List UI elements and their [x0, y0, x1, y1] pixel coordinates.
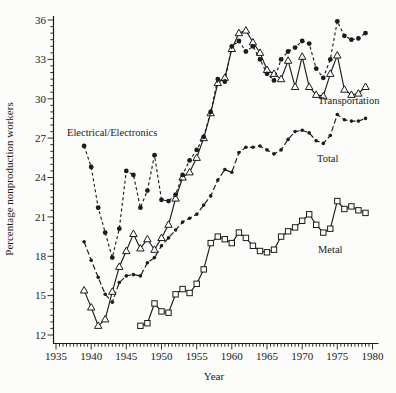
marker-small-dot — [357, 119, 361, 123]
marker-open-triangle — [306, 83, 313, 90]
marker-filled-circle — [335, 19, 340, 24]
x-tick-label: 1935 — [45, 350, 68, 362]
marker-small-dot — [153, 256, 157, 260]
chart-figure: Percentage nonproduction workers Year 12… — [0, 0, 396, 393]
marker-filled-circle — [244, 49, 249, 54]
axis-spines — [54, 16, 379, 344]
marker-open-triangle — [158, 234, 165, 241]
y-axis-tick-labels: 121518212427303336 — [35, 14, 47, 341]
marker-small-dot — [364, 117, 368, 121]
marker-open-triangle — [291, 83, 298, 90]
x-tick-label: 1975 — [326, 350, 349, 362]
marker-filled-circle — [321, 75, 326, 80]
marker-small-dot — [146, 261, 150, 265]
marker-open-square — [328, 226, 333, 231]
marker-open-square — [159, 309, 164, 314]
marker-filled-circle — [201, 134, 206, 139]
marker-filled-circle — [152, 153, 157, 158]
marker-small-dot — [223, 168, 227, 172]
marker-open-square — [138, 323, 143, 328]
x-tick-label: 1945 — [115, 350, 138, 362]
marker-filled-circle — [89, 165, 94, 170]
marker-filled-circle — [356, 36, 361, 41]
marker-filled-circle — [251, 44, 256, 49]
marker-small-dot — [139, 274, 143, 278]
marker-open-square — [285, 229, 290, 234]
marker-open-square — [222, 237, 227, 242]
marker-small-dot — [181, 220, 185, 224]
y-tick-label: 12 — [35, 329, 46, 341]
marker-filled-circle — [222, 79, 227, 84]
marker-filled-circle — [131, 173, 136, 178]
series-metal: Metal — [138, 198, 368, 328]
marker-small-dot — [195, 213, 199, 217]
marker-filled-circle — [342, 33, 347, 38]
y-axis-ticks — [48, 20, 54, 335]
marker-open-triangle — [109, 288, 116, 295]
marker-open-square — [187, 290, 192, 295]
y-tick-label: 21 — [35, 211, 46, 223]
marker-small-dot — [125, 274, 129, 278]
chart-canvas: Percentage nonproduction workers Year 12… — [0, 0, 396, 393]
series-label-transportation: Transportation — [318, 95, 380, 106]
marker-small-dot — [314, 139, 318, 143]
x-tick-label: 1970 — [291, 350, 314, 362]
y-tick-label: 18 — [35, 250, 47, 262]
marker-small-dot — [307, 131, 311, 135]
marker-filled-circle — [138, 205, 143, 210]
marker-filled-circle — [286, 49, 291, 54]
marker-open-square — [166, 310, 171, 315]
marker-open-square — [194, 281, 199, 286]
marker-open-triangle — [186, 168, 193, 175]
marker-open-square — [342, 206, 347, 211]
marker-open-square — [201, 267, 206, 272]
marker-filled-circle — [279, 57, 284, 62]
x-axis-title: Year — [204, 370, 225, 382]
marker-open-triangle — [102, 315, 109, 322]
marker-filled-circle — [237, 39, 242, 44]
marker-small-dot — [103, 293, 107, 297]
marker-open-triangle — [116, 263, 123, 270]
marker-open-square — [356, 208, 361, 213]
marker-small-dot — [279, 148, 283, 152]
x-tick-label: 1980 — [362, 350, 385, 362]
y-tick-label: 27 — [35, 132, 47, 144]
marker-open-square — [152, 301, 157, 306]
marker-small-dot — [118, 281, 122, 285]
marker-filled-circle — [194, 148, 199, 153]
marker-filled-circle — [124, 169, 129, 174]
marker-open-square — [180, 286, 185, 291]
y-tick-label: 36 — [35, 14, 47, 26]
marker-small-dot — [329, 134, 333, 138]
marker-open-triangle — [242, 27, 249, 33]
series-line-electrical-electronics — [84, 21, 365, 257]
marker-filled-circle — [110, 255, 115, 260]
marker-small-dot — [132, 273, 136, 277]
marker-filled-circle — [173, 192, 178, 197]
marker-open-triangle — [284, 57, 291, 64]
marker-open-square — [278, 234, 283, 239]
marker-filled-circle — [159, 197, 164, 202]
marker-open-square — [145, 321, 150, 326]
marker-open-square — [208, 240, 213, 245]
marker-open-square — [321, 230, 326, 235]
marker-open-triangle — [334, 52, 341, 59]
marker-open-square — [271, 247, 276, 252]
marker-filled-circle — [187, 158, 192, 163]
marker-small-dot — [111, 300, 115, 304]
marker-open-triangle — [165, 221, 172, 228]
marker-small-dot — [251, 146, 255, 150]
marker-filled-circle — [363, 31, 368, 36]
marker-filled-circle — [117, 226, 122, 231]
y-tick-label: 15 — [35, 289, 47, 301]
marker-open-triangle — [193, 154, 200, 161]
marker-open-square — [215, 234, 220, 239]
marker-filled-circle — [215, 77, 220, 82]
marker-open-square — [363, 210, 368, 215]
x-axis-ticks — [56, 344, 373, 350]
marker-open-triangle — [130, 230, 137, 237]
marker-small-dot — [167, 236, 171, 240]
marker-open-square — [264, 250, 269, 255]
marker-small-dot — [272, 152, 276, 156]
marker-small-dot — [265, 148, 269, 152]
